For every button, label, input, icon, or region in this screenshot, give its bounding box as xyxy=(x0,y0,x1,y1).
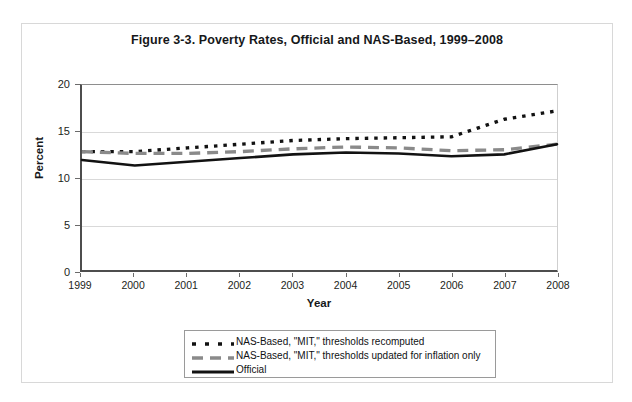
x-tick-label: 2000 xyxy=(107,280,159,291)
x-tick-label: 1999 xyxy=(54,280,106,291)
x-tick-label: 2001 xyxy=(160,280,212,291)
legend: NAS-Based, "MIT," thresholds recomputedN… xyxy=(184,330,496,378)
x-tick-mark xyxy=(505,273,506,277)
legend-item: NAS-Based, "MIT," thresholds updated for… xyxy=(191,349,489,362)
x-axis-title: Year xyxy=(80,297,558,309)
x-tick-mark xyxy=(80,273,81,277)
x-tick-label: 2007 xyxy=(479,280,531,291)
legend-swatch-solid xyxy=(191,364,235,376)
x-tick-label: 2004 xyxy=(320,280,372,291)
x-tick-label: 2005 xyxy=(373,280,425,291)
x-tick-mark xyxy=(239,273,240,277)
legend-item: Official xyxy=(191,363,489,376)
x-tick-label: 2008 xyxy=(532,280,584,291)
x-tick-mark xyxy=(133,273,134,277)
y-tick-label: 0 xyxy=(36,267,70,278)
x-tick-mark xyxy=(346,273,347,277)
legend-label: NAS-Based, "MIT," thresholds recomputed xyxy=(236,336,424,348)
x-tick-mark xyxy=(292,273,293,277)
legend-item: NAS-Based, "MIT," thresholds recomputed xyxy=(191,335,489,348)
series-line-1 xyxy=(82,111,557,152)
series-line-2 xyxy=(82,144,557,153)
chart-title: Figure 3-3. Poverty Rates, Official and … xyxy=(21,33,613,47)
plot-area xyxy=(80,84,558,272)
series-lines xyxy=(82,85,557,270)
x-tick-mark xyxy=(186,273,187,277)
figure-root: Figure 3-3. Poverty Rates, Official and … xyxy=(0,0,632,402)
y-tick-label: 10 xyxy=(36,173,70,184)
x-tick-mark xyxy=(452,273,453,277)
legend-swatch-dotted xyxy=(191,336,235,348)
x-tick-mark xyxy=(399,273,400,277)
x-tick-label: 2006 xyxy=(426,280,478,291)
legend-swatch-dashed xyxy=(191,350,235,362)
legend-label: NAS-Based, "MIT," thresholds updated for… xyxy=(236,350,480,362)
y-tick-label: 5 xyxy=(36,220,70,231)
x-tick-mark xyxy=(558,273,559,277)
y-tick-label: 20 xyxy=(36,79,70,90)
x-tick-label: 2003 xyxy=(266,280,318,291)
legend-label: Official xyxy=(236,364,266,376)
x-tick-label: 2002 xyxy=(213,280,265,291)
y-tick-label: 15 xyxy=(36,126,70,137)
